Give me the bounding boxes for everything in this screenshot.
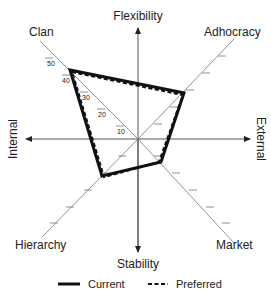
label-market: Market	[216, 238, 253, 252]
label-flexibility: Flexibility	[113, 9, 162, 23]
label-stability: Stability	[117, 257, 159, 271]
tick-label-40: 40	[62, 77, 70, 84]
label-external: External	[254, 117, 268, 161]
series-current	[70, 70, 184, 176]
legend-current-label: Current	[88, 278, 125, 290]
legend: Current Preferred	[58, 278, 222, 290]
market-ticks	[154, 156, 230, 223]
tick-label-20: 20	[98, 111, 106, 118]
label-adhocracy: Adhocracy	[204, 25, 261, 39]
label-hierarchy: Hierarchy	[15, 238, 66, 252]
label-internal: Internal	[6, 119, 20, 159]
tick-label-50: 50	[47, 60, 55, 67]
series-preferred	[72, 72, 183, 177]
legend-preferred-label: Preferred	[176, 278, 222, 290]
tick-label-30: 30	[82, 94, 90, 101]
competing-values-radar-chart: 10 20 30 40 50 Flexibility Stability Int…	[0, 0, 271, 296]
tick-label-10: 10	[117, 128, 125, 135]
label-clan: Clan	[29, 25, 54, 39]
